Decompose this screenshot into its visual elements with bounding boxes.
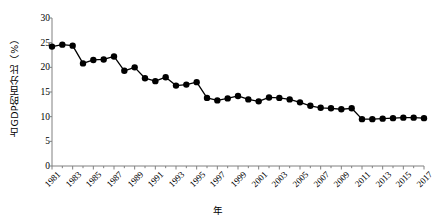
data-point-marker xyxy=(410,114,416,120)
data-point-marker xyxy=(173,82,179,88)
data-point-marker xyxy=(183,81,189,87)
y-tick-label: 25 xyxy=(28,38,50,48)
data-point-marker xyxy=(359,116,365,122)
data-point-marker xyxy=(224,95,230,101)
data-point-marker xyxy=(338,106,344,112)
data-point-marker xyxy=(214,97,220,103)
plot-area xyxy=(52,18,424,166)
series-plot xyxy=(52,18,424,166)
y-tick-label: 15 xyxy=(28,87,50,97)
data-point-marker xyxy=(142,75,148,81)
data-point-marker xyxy=(400,114,406,120)
data-point-marker xyxy=(152,78,158,84)
data-point-marker xyxy=(59,41,65,47)
y-tick-label: 5 xyxy=(28,136,50,146)
data-point-marker xyxy=(90,57,96,63)
data-point-marker xyxy=(49,43,55,49)
y-tick-label: 30 xyxy=(28,13,50,23)
data-point-marker xyxy=(276,95,282,101)
data-point-marker xyxy=(286,96,292,102)
data-point-marker xyxy=(317,105,323,111)
data-point-marker xyxy=(204,95,210,101)
data-point-marker xyxy=(100,56,106,62)
data-point-marker xyxy=(348,105,354,111)
data-point-marker xyxy=(131,64,137,70)
data-point-marker xyxy=(235,93,241,99)
data-point-marker xyxy=(421,115,427,121)
data-point-marker xyxy=(379,115,385,121)
data-point-marker xyxy=(266,94,272,100)
y-axis-title-text: 占GDP的百分比（%） xyxy=(8,34,22,137)
data-point-marker xyxy=(369,116,375,122)
data-point-marker xyxy=(297,99,303,105)
y-axis-title: 占GDP的百分比（%） xyxy=(2,0,28,170)
data-point-marker xyxy=(193,79,199,85)
y-tick-label: 20 xyxy=(28,62,50,72)
data-point-marker xyxy=(121,68,127,74)
data-point-marker xyxy=(111,53,117,59)
data-point-marker xyxy=(390,115,396,121)
data-point-marker xyxy=(162,74,168,80)
data-point-marker xyxy=(307,103,313,109)
chart-container: 占GDP的百分比（%） 051015202530 198119831985198… xyxy=(0,0,436,222)
data-point-marker xyxy=(328,105,334,111)
data-point-marker xyxy=(245,96,251,102)
data-line xyxy=(52,45,424,119)
x-axis-tick-labels: 1981198319851987198919911993199519971999… xyxy=(0,168,436,208)
data-point-marker xyxy=(69,42,75,48)
data-point-marker xyxy=(80,60,86,66)
y-tick-label: 10 xyxy=(28,112,50,122)
data-point-marker xyxy=(255,98,261,104)
x-axis-title: 年 xyxy=(0,203,436,217)
